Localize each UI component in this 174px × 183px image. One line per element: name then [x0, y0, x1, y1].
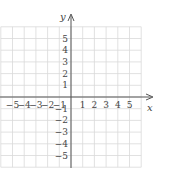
x-tick-label: 4: [115, 100, 121, 110]
x-tick-label: 1: [80, 100, 86, 110]
coordinate-plane: x y −5−4−3−2−112345 54321−1−2−3−4−5: [0, 0, 174, 183]
y-tick-label: 1: [62, 80, 68, 90]
y-tick-label: −5: [55, 151, 69, 161]
x-tick-label: 3: [103, 100, 109, 110]
y-tick-label: −1: [55, 104, 68, 114]
y-tick-label: 3: [62, 57, 68, 67]
y-tick-label: 5: [62, 34, 68, 44]
x-axis-label: x: [147, 102, 153, 113]
y-tick-label: 4: [62, 45, 68, 55]
y-axis-label: y: [59, 11, 66, 22]
axes: [0, 14, 153, 168]
y-tick-label: 2: [62, 69, 68, 79]
x-tick-label: 2: [92, 100, 98, 110]
y-tick-label: −4: [55, 139, 69, 149]
x-tick-label: 5: [127, 100, 133, 110]
y-tick-label: −3: [55, 127, 69, 137]
y-tick-label: −2: [55, 115, 68, 125]
